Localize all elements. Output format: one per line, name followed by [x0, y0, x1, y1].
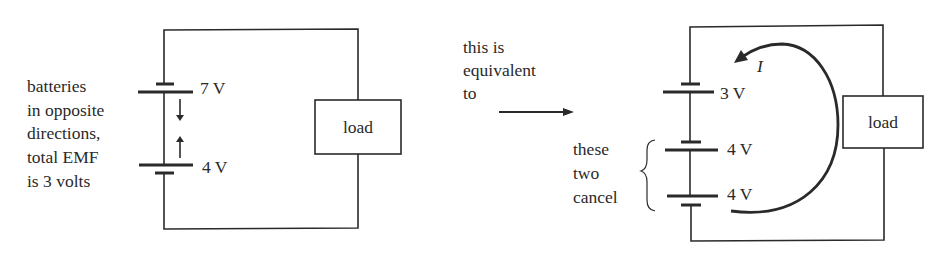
- curly-brace-icon: [641, 140, 655, 211]
- left-annotation: batteries: [27, 76, 86, 96]
- battery-4v-upper: [665, 142, 718, 150]
- battery-3-label: 4 V: [727, 184, 753, 204]
- left-annotation-line-3: directions,: [27, 123, 100, 143]
- left-annotation-line-5: is 3 volts: [27, 171, 90, 191]
- left-annotation-line-2: in opposite: [27, 100, 105, 120]
- cancel-annotation-line-1: these: [573, 139, 609, 159]
- battery-bottom-label: 4 V: [202, 157, 228, 177]
- right-load-label: load: [868, 112, 898, 132]
- current-label: I: [756, 56, 764, 76]
- battery-4v: [139, 165, 193, 173]
- battery-2-label: 4 V: [727, 139, 753, 159]
- battery-7v: [138, 84, 193, 92]
- battery-4v-lower: [667, 196, 718, 205]
- cancel-annotation-line-3: cancel: [573, 187, 618, 207]
- left-circuit: batteries in opposite directions, total …: [27, 29, 401, 229]
- right-wire-bottom: [691, 148, 884, 241]
- equivalence-note: this is equivalent to: [463, 37, 574, 116]
- battery-1-label: 3 V: [720, 83, 746, 103]
- right-circuit: 3 V 4 V 4 V these two cancel I load: [573, 25, 923, 241]
- middle-annotation-line-3: to: [463, 83, 477, 103]
- battery-3v: [663, 84, 714, 92]
- left-load-label: load: [343, 117, 373, 137]
- left-wire-top: [164, 29, 358, 100]
- middle-annotation-line-2: equivalent: [463, 60, 536, 80]
- left-annotation-line-4: total EMF: [27, 147, 99, 167]
- left-wire-bottom: [164, 154, 358, 229]
- middle-annotation-line-1: this is: [463, 37, 505, 57]
- circuit-diagram: batteries in opposite directions, total …: [0, 0, 950, 255]
- right-wire-top: [690, 25, 883, 96]
- cancel-annotation-line-2: two: [573, 163, 600, 183]
- arrow-right-icon: [563, 108, 574, 116]
- battery-top-label: 7 V: [200, 78, 226, 98]
- current-arrowhead-icon: [734, 50, 748, 63]
